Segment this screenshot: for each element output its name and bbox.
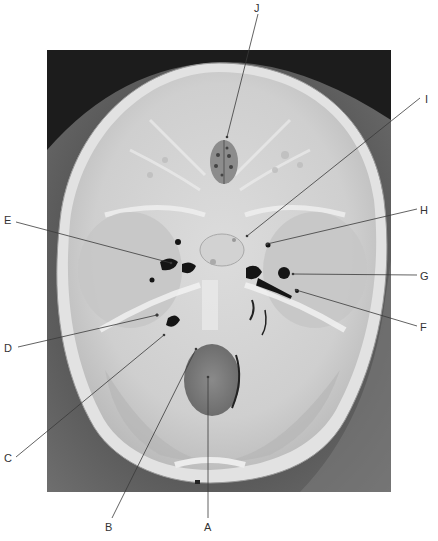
label-j: J [254,2,260,14]
label-i: I [425,93,428,105]
label-h: H [420,204,428,216]
label-c: C [4,452,12,464]
foramen-ovale-right [278,267,290,279]
skull-base-illustration [0,0,438,541]
label-b: B [105,521,112,533]
skull-base-figure: A B C D E F G H I J [0,0,438,541]
label-f: F [420,321,427,333]
label-g: G [420,270,429,282]
label-d: D [4,342,12,354]
label-a: A [204,521,211,533]
label-e: E [4,214,11,226]
foramen-magnum [184,344,240,416]
sella-turcica [200,234,244,266]
